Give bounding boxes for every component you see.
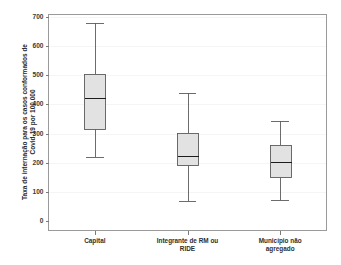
x-category-label-1-line-1: Capital bbox=[84, 237, 106, 245]
x-category-label-2-line-1: Integrante de RM ou bbox=[157, 237, 219, 245]
x-category-label-2-line-2: RIDE bbox=[180, 245, 196, 252]
boxplot-chart: 0100200300400500600700 Taxa de internaçã… bbox=[0, 0, 341, 265]
y-tick-label-500: 500 bbox=[32, 71, 43, 78]
iqr-box-1 bbox=[85, 75, 106, 130]
boxplot-svg: 0100200300400500600700 Taxa de internaçã… bbox=[0, 0, 341, 265]
y-axis-title-line-1: Taxa de internação para os casos conform… bbox=[21, 44, 29, 200]
x-category-label-3-line-2: agregado bbox=[266, 245, 295, 253]
y-tick-label-700: 700 bbox=[32, 13, 43, 20]
y-tick-label-100: 100 bbox=[32, 188, 43, 195]
x-category-label-3-line-1: Município não bbox=[259, 237, 302, 245]
chart-background bbox=[0, 0, 341, 265]
y-axis-title-line-2: Covid-19 por 100.000 bbox=[29, 89, 37, 154]
y-tick-label-200: 200 bbox=[32, 159, 43, 166]
y-tick-label-0: 0 bbox=[40, 217, 44, 224]
iqr-box-2 bbox=[178, 134, 199, 166]
y-tick-label-600: 600 bbox=[32, 42, 43, 49]
iqr-box-3 bbox=[271, 146, 292, 178]
